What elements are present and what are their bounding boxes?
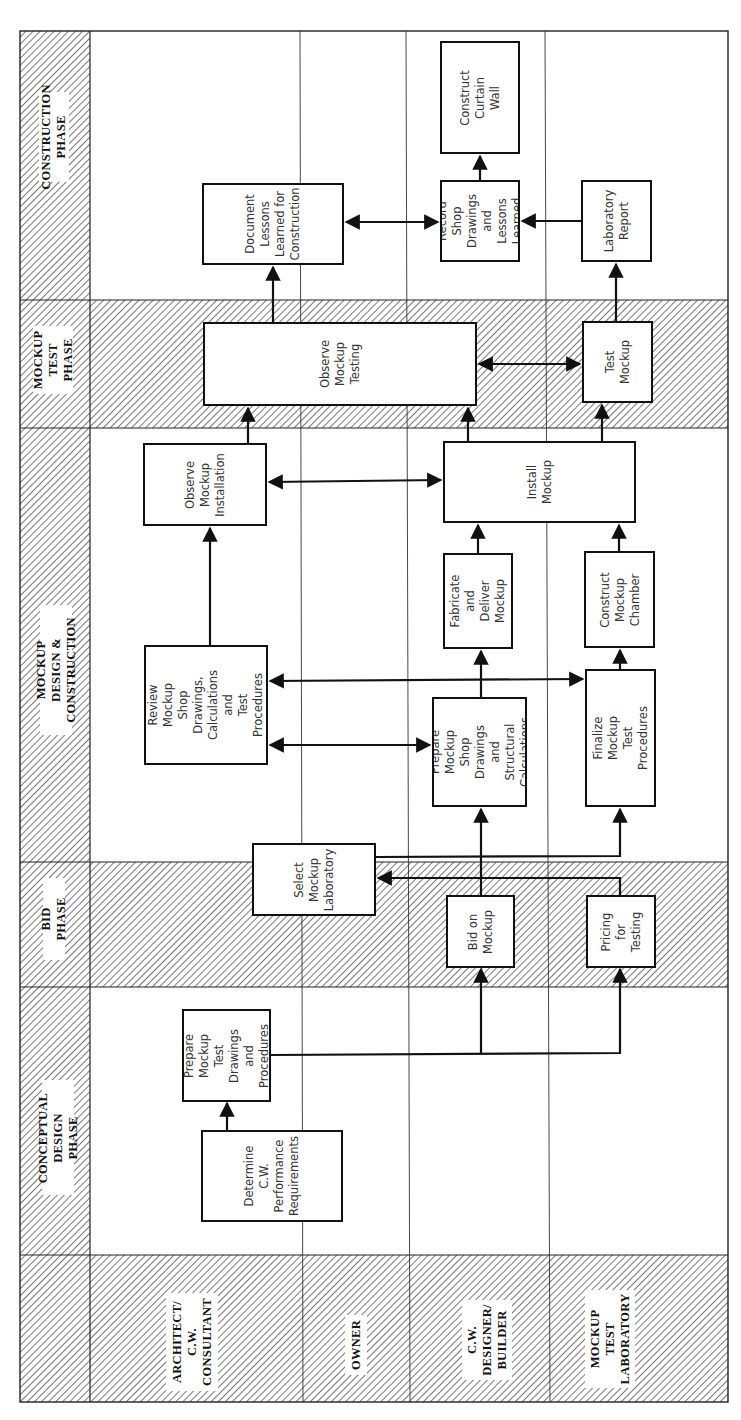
task-construct-chamber[interactable]: Construct Mockup Chamber [584, 551, 655, 648]
swimlane-diagram: CONSTRUCTION PHASE MOCKUP TEST PHASE MOC… [0, 0, 741, 1420]
task-laboratory-report[interactable]: Laboratory Report [581, 180, 652, 262]
phase-label-bid: BID PHASE [43, 878, 65, 960]
phase-label-mockup-design: MOCKUP DESIGN & CONSTRUCTION [40, 605, 72, 735]
lane-label-lab: MOCKUP TEST LABORATORY [585, 1290, 635, 1388]
phase-label-conceptual: CONCEPTUAL DESIGN PHASE [42, 1080, 74, 1195]
task-record-shop-drawings[interactable]: Record Shop Drawings and Lessons Learned [440, 180, 520, 262]
task-observe-installation[interactable]: Observe Mockup Installation [143, 443, 267, 526]
lane-label-designer: C.W. DESIGNER/ BUILDER [462, 1300, 512, 1380]
task-determine-requirements[interactable]: Determine C.W. Performance Requirements [201, 1130, 343, 1222]
task-finalize-test-procedures[interactable]: Finalize Mockup Test Procedures [585, 669, 656, 807]
phase-label-mockup-test: MOCKUP TEST PHASE [33, 326, 73, 394]
task-construct-curtain-wall[interactable]: Construct Curtain Wall [440, 41, 520, 154]
task-prepare-test-drawings[interactable]: Prepare Mockup Test Drawings and Procedu… [182, 1009, 271, 1102]
task-bid-on-mockup[interactable]: Bid on Mockup [446, 895, 515, 968]
task-prepare-shop-drawings[interactable]: Prepare Mockup Shop Drawings and Structu… [432, 697, 527, 807]
task-observe-testing[interactable]: Observe Mockup Testing [203, 322, 477, 406]
task-review-shop-drawings[interactable]: Review Mockup Shop Drawings, Calculation… [144, 645, 268, 765]
task-install-mockup[interactable]: Install Mockup [443, 441, 636, 523]
phase-label-construction: CONSTRUCTION PHASE [39, 92, 69, 182]
task-pricing-for-testing[interactable]: Pricing for Testing [586, 895, 656, 968]
task-document-lessons[interactable]: Document Lessons Learned for Constructio… [202, 183, 344, 265]
lane-label-architect: ARCHITECT/ C.W. CONSULTANT [166, 1293, 218, 1391]
lane-label-owner: OWNER [345, 1315, 367, 1375]
task-select-laboratory[interactable]: Select Mockup Laboratory [252, 843, 376, 916]
task-fabricate-deliver[interactable]: Fabricate and Deliver Mockup [443, 553, 513, 649]
task-test-mockup[interactable]: Test Mockup [582, 321, 653, 403]
